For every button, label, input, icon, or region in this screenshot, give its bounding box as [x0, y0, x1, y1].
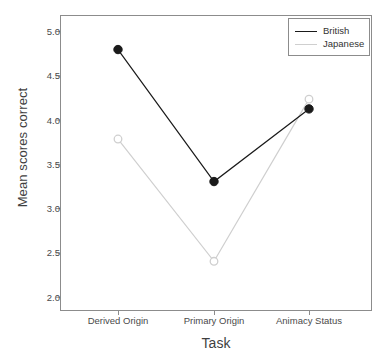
data-point — [114, 45, 122, 53]
data-point — [305, 105, 313, 113]
series-british — [114, 45, 313, 185]
y-axis-tick-label: 4.0 — [26, 114, 60, 125]
y-axis-tick-label: 2.5 — [26, 247, 60, 258]
data-point — [305, 95, 313, 103]
y-axis-tick-label: 4.5 — [26, 70, 60, 81]
chart-figure: Mean scores correct 2.02.53.03.54.04.55.… — [0, 0, 386, 361]
legend-item-japanese: Japanese — [295, 37, 361, 50]
chart-legend: BritishJapanese — [288, 18, 370, 56]
panel-border — [61, 16, 372, 311]
y-axis-tick-label: 2.0 — [26, 291, 60, 302]
legend-label: British — [323, 25, 349, 36]
x-axis-title: Task — [60, 335, 372, 351]
legend-item-british: British — [295, 24, 361, 37]
y-axis-tick-label: 5.0 — [26, 25, 60, 36]
x-axis-tick-label: Derived Origin — [88, 315, 149, 326]
legend-label: Japanese — [323, 38, 364, 49]
x-axis-tick-label: Animacy Status — [276, 315, 342, 326]
data-point — [114, 135, 122, 143]
data-point — [210, 257, 218, 265]
x-axis-tick-label: Primary Origin — [184, 315, 245, 326]
legend-line-swatch-icon — [295, 26, 317, 36]
data-point — [210, 177, 218, 185]
y-axis-tick-labels: 2.02.53.03.54.04.55.0 — [22, 0, 60, 361]
legend-line-swatch-icon — [295, 39, 317, 49]
y-axis-tick-label: 3.5 — [26, 158, 60, 169]
y-axis-tick-label: 3.0 — [26, 203, 60, 214]
series-line-british — [118, 50, 309, 182]
